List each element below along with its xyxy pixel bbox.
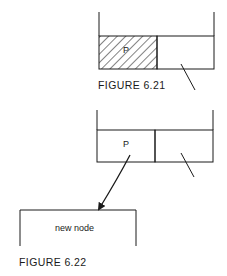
pointer-label-p: P (123, 46, 129, 55)
null-pointer-line (181, 153, 194, 177)
pointer-label-p: P (123, 140, 129, 149)
new-node-label: new node (55, 224, 94, 233)
figure-caption: FIGURE 6.22 (19, 257, 86, 268)
null-pointer-line (181, 64, 195, 90)
diagram-canvas (0, 0, 227, 276)
pointer-arrow (99, 155, 130, 209)
link-field (155, 130, 213, 162)
figure-6-22-node (20, 110, 213, 246)
link-field (157, 36, 214, 69)
figure-caption: FIGURE 6.21 (98, 80, 165, 91)
